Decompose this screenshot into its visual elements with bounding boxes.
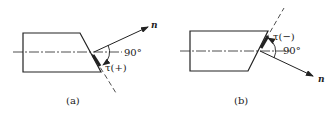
caption-a: (a) — [66, 95, 80, 106]
figure-b: n 90° τ(−) (b) — [180, 8, 325, 106]
diagram-canvas: n 90° τ(+) (a) n 90° τ(−) (b) — [0, 0, 334, 116]
right-angle-label-b: 90° — [283, 45, 301, 56]
figure-a: n 90° τ(+) (a) — [13, 20, 158, 106]
caption-b: (b) — [234, 95, 248, 106]
normal-label-a: n — [151, 20, 158, 30]
right-angle-label-a: 90° — [124, 47, 142, 58]
angle-label-a: τ(+) — [105, 62, 127, 73]
angle-label-b: τ(−) — [273, 31, 295, 42]
tool-body-a — [23, 33, 101, 72]
normal-label-b: n — [318, 74, 325, 84]
